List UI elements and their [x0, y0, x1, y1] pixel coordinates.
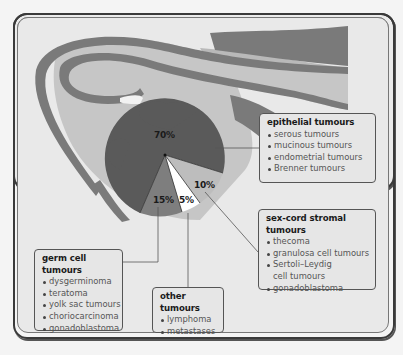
box-title: sex-cord stromal tumours: [266, 213, 370, 236]
list-item: granulosa cell tumours: [266, 248, 370, 260]
other-tumours-box: other tumours lymphoma metastases: [152, 287, 224, 333]
pct-germ-cell: 15%: [153, 195, 174, 205]
list-item: dysgerminoma: [42, 276, 117, 288]
box-title: germ cell tumours: [42, 253, 117, 276]
list-item: yolk sac tumours: [42, 299, 117, 311]
list-item: serous tumours: [267, 129, 370, 141]
list-item: lymphoma: [160, 314, 218, 326]
box-title: epithelial tumours: [267, 117, 370, 129]
list-item: Brenner tumours: [267, 163, 370, 175]
sex-cord-stromal-tumours-box: sex-cord stromal tumours thecoma granulo…: [258, 209, 376, 290]
germ-cell-tumours-box: germ cell tumours dysgerminoma teratoma …: [34, 249, 123, 331]
list-item: mucinous tumours: [267, 140, 370, 152]
list-item: Sertoli–Leydig: [266, 259, 370, 271]
box-title: other tumours: [160, 291, 218, 314]
list-item-continuation: cell tumours: [266, 271, 370, 283]
list-item: metastases: [160, 326, 218, 338]
list-item: choriocarcinoma: [42, 311, 117, 323]
list-item: thecoma: [266, 236, 370, 248]
pct-other: 5%: [179, 195, 194, 205]
epithelial-tumours-box: epithelial tumours serous tumours mucino…: [259, 113, 376, 183]
pct-epithelial: 70%: [154, 130, 175, 140]
pct-sex-cord-stromal: 10%: [194, 180, 215, 190]
list-item: endometrial tumours: [267, 152, 370, 164]
list-item: gonadoblastoma: [266, 283, 370, 295]
list-item: gonadoblastoma: [42, 323, 117, 335]
list-item: teratoma: [42, 288, 117, 300]
